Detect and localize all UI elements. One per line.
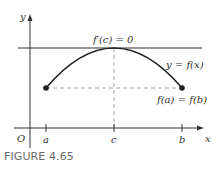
origin-label: O [17,133,25,144]
curve-f [46,48,182,88]
rolle-theorem-diagram: y x O a c b f′(c) = 0 y = f(x) f(a) = f(… [0,0,218,169]
tangent-annotation: f′(c) = 0 [92,34,134,45]
curve-annotation: y = f(x) [165,59,204,70]
x-axis-label: x [205,133,211,144]
x-axis-arrow-icon [197,126,204,131]
y-axis-arrow-icon [28,14,33,21]
endpoint-annotation: f(a) = f(b) [156,94,207,105]
tick-label-c: c [111,134,117,145]
endpoint-a-dot [43,85,49,91]
y-axis-label: y [19,11,26,22]
tick-label-a: a [43,134,49,145]
figure-caption: FIGURE 4.65 [4,150,74,163]
tick-label-b: b [179,134,185,145]
endpoint-b-dot [179,85,185,91]
